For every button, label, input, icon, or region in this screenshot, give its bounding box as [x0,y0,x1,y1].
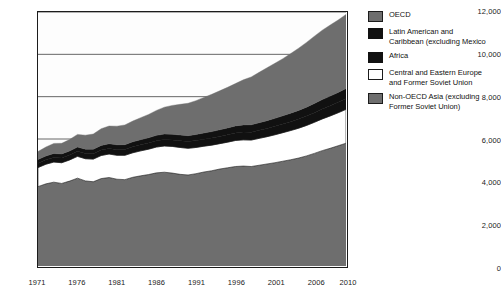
x-tick-label: 1991 [188,278,205,287]
legend-label: OECD [389,10,411,20]
x-tick-label: 1971 [28,278,45,287]
legend-swatch-central-eastern-europe [368,69,383,80]
x-tick-label: 1981 [108,278,125,287]
legend-swatch-africa [368,52,383,63]
y-tick-label: 2,000 [467,221,501,230]
y-tick-label: 0 [467,264,501,273]
legend-label: Africa [389,51,408,61]
legend-label: Central and Eastern Europe and Former So… [389,68,482,87]
y-tick-label: 4,000 [467,178,501,187]
plot-area [37,11,348,268]
legend-item-oecd: OECD [368,10,501,22]
legend-item-non-oecd-asia: Non-OECD Asia (excluding Former Soviet U… [368,92,501,111]
y-tick-label: 6,000 [467,135,501,144]
legend-swatch-latin-american-caribbean [368,28,383,39]
legend-swatch-non-oecd-asia [368,93,383,104]
x-tick-label: 1996 [228,278,245,287]
legend-item-central-eastern-europe: Central and Eastern Europe and Former So… [368,68,501,87]
x-tick-label: 1976 [68,278,85,287]
x-tick-label: 2006 [308,278,325,287]
stacked-area-chart: 12,000 10,000 8,000 6,000 4,000 2,000 0 … [0,0,501,293]
x-tick-label: 1986 [148,278,165,287]
legend-item-latin-american-caribbean: Latin American and Caribbean (excluding … [368,27,501,46]
legend-swatch-oecd [368,11,383,22]
x-tick-label: 2001 [268,278,285,287]
x-tick-label: 2010 [339,278,356,287]
legend-label: Latin American and Caribbean (excluding … [389,27,486,46]
plot-svg [38,12,346,266]
legend: OECD Latin American and Caribbean (exclu… [368,10,501,116]
legend-label: Non-OECD Asia (excluding Former Soviet U… [389,92,479,111]
legend-item-africa: Africa [368,51,501,63]
